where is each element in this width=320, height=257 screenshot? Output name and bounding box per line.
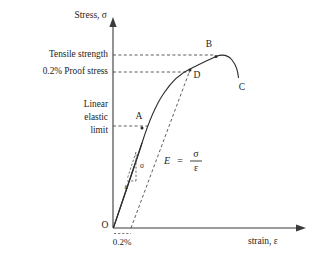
formula-equals-sign: = <box>177 155 183 166</box>
point-label-a: A <box>136 111 143 121</box>
curve-group <box>114 55 239 227</box>
point-label-b: B <box>206 39 212 49</box>
axes-group <box>109 17 306 232</box>
linear-elastic-limit-line1: Linear <box>84 99 109 109</box>
slope-run-label: ε <box>124 182 127 191</box>
point-label-c: C <box>239 82 245 92</box>
point-marker-d <box>189 69 192 72</box>
origin-label: O <box>102 220 109 230</box>
x-axis-arrowhead <box>296 224 306 231</box>
offset-strain-label: 0.2% <box>113 237 132 247</box>
linear-elastic-segment <box>114 143 143 228</box>
stress-strain-curve <box>114 55 239 227</box>
formula-symbol-e: E <box>163 155 170 166</box>
stress-strain-plot: Stress, σ strain, ε O Tensile strength 0… <box>0 0 320 257</box>
point-markers-group <box>141 55 218 130</box>
formula-denominator-epsilon: ε <box>194 162 198 173</box>
slope-rise-label: σ <box>140 161 144 170</box>
linear-elastic-limit-line3: limit <box>90 125 108 135</box>
linear-elastic-limit-line2: elastic <box>84 112 108 122</box>
proof-stress-label: 0.2% Proof stress <box>43 66 109 76</box>
point-marker-a <box>141 127 144 130</box>
point-marker-b <box>215 55 218 58</box>
point-label-d: D <box>194 70 201 80</box>
x-axis-label: strain, ε <box>248 236 278 246</box>
formula-numerator-sigma: σ <box>193 148 199 159</box>
tensile-strength-label: Tensile strength <box>49 49 108 59</box>
stress-strain-diagram: Stress, σ strain, ε O Tensile strength 0… <box>0 0 320 257</box>
y-axis-label: Stress, σ <box>74 10 107 20</box>
modulus-formula-group: E = σ ε <box>163 148 202 173</box>
reference-lines-group <box>113 55 214 234</box>
y-axis-arrowhead <box>109 17 116 27</box>
